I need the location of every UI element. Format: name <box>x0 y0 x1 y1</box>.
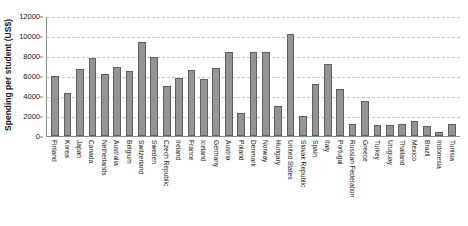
bar <box>386 125 394 136</box>
x-tick-label: Mexico <box>411 140 418 161</box>
x-tick-label: Denmark <box>250 140 257 167</box>
x-tick-label: Canada <box>88 140 95 163</box>
x-label-slot: Canada <box>85 139 97 225</box>
x-tick-label: Sweden <box>150 140 157 164</box>
x-label-slot: Poland <box>234 139 246 225</box>
bar <box>312 84 320 136</box>
bar-slot <box>136 17 148 136</box>
x-tick-label: Italy <box>324 140 331 152</box>
bar <box>336 89 344 136</box>
bar-slot <box>371 17 383 136</box>
bar-slot <box>235 17 247 136</box>
bar-slot <box>359 17 371 136</box>
bar-slot <box>272 17 284 136</box>
x-tick-label: Thailand <box>399 140 406 165</box>
bar <box>274 106 282 136</box>
x-label-slot: Sweden <box>147 139 159 225</box>
bar-slot <box>99 17 111 136</box>
bar-slot <box>433 17 445 136</box>
x-label-slot: France <box>185 139 197 225</box>
x-label-slot: Portugal <box>334 139 346 225</box>
y-tick-mark <box>40 37 43 38</box>
bar-slot <box>123 17 135 136</box>
y-tick-mark <box>40 117 43 118</box>
bar-slot <box>408 17 420 136</box>
bar <box>126 71 134 136</box>
y-tick-mark <box>40 77 43 78</box>
bar-slot <box>111 17 123 136</box>
bar <box>212 68 220 136</box>
x-tick-label: Australia <box>113 140 120 166</box>
bar-slot <box>384 17 396 136</box>
x-label-slot: Ireland <box>172 139 184 225</box>
bar <box>175 78 183 136</box>
bar-slot <box>185 17 197 136</box>
bar-slot <box>334 17 346 136</box>
bar <box>423 126 431 136</box>
x-label-slot: Mexico <box>408 139 420 225</box>
y-tick-mark <box>40 97 43 98</box>
x-label-slot: United States <box>284 139 296 225</box>
x-tick-label: Czech Republic <box>163 140 170 186</box>
bar-slot <box>247 17 259 136</box>
y-tick-mark <box>40 17 43 18</box>
x-tick-label: Turkey <box>374 140 381 160</box>
x-label-slot: Australia <box>110 139 122 225</box>
plot-area <box>46 17 460 137</box>
x-label-slot: Indonesia <box>433 139 445 225</box>
bar <box>113 67 121 136</box>
bar <box>150 57 158 136</box>
bar <box>200 79 208 136</box>
bar-slot <box>86 17 98 136</box>
bar-slot <box>49 17 61 136</box>
x-label-slot: Korea <box>60 139 72 225</box>
bar <box>89 58 97 136</box>
x-tick-label: Tunisia <box>448 140 455 161</box>
x-label-slot: Uruguay <box>383 139 395 225</box>
bar <box>324 64 332 136</box>
bar <box>262 52 270 136</box>
x-label-slot: Iceland <box>197 139 209 225</box>
bar-slot <box>260 17 272 136</box>
bar <box>51 76 59 136</box>
x-label-slot: Austria <box>222 139 234 225</box>
x-tick-label: Japan <box>76 140 83 158</box>
x-label-slot: Germany <box>209 139 221 225</box>
x-label-slot: Spain <box>309 139 321 225</box>
bar-slot <box>148 17 160 136</box>
x-label-slot: Italy <box>321 139 333 225</box>
x-label-slot: Turkey <box>371 139 383 225</box>
x-tick-label: Poland <box>237 140 244 161</box>
x-label-slot: Belgium <box>123 139 135 225</box>
x-label-slot: Norway <box>259 139 271 225</box>
bar-slot <box>446 17 458 136</box>
y-axis-tick-labels: 020004000600080001000012000 <box>16 17 43 137</box>
bar-slot <box>309 17 321 136</box>
x-tick-label: Hungary <box>275 140 282 165</box>
bar-slot <box>61 17 73 136</box>
bar <box>361 101 369 136</box>
y-tick-label: 6000 <box>23 73 40 81</box>
y-tick-label: 12000 <box>19 13 40 21</box>
x-tick-label: France <box>188 140 195 161</box>
bar-chart: Spending per student (US$) 0200040006000… <box>0 0 468 226</box>
bar-slot <box>421 17 433 136</box>
bar <box>64 93 72 136</box>
bar <box>299 116 307 136</box>
x-label-slot: Switzerland <box>135 139 147 225</box>
bar-slot <box>346 17 358 136</box>
x-tick-label: United States <box>287 140 294 180</box>
bar-slot <box>284 17 296 136</box>
y-axis-title: Spending per student (US$) <box>0 0 16 150</box>
x-tick-label: Russian Federation <box>349 140 356 197</box>
x-tick-label: Portugal <box>337 140 344 165</box>
x-tick-label: Uruguay <box>386 140 393 165</box>
x-label-slot: Russian Federation <box>346 139 358 225</box>
x-tick-label: Belgium <box>125 140 132 164</box>
x-tick-label: Korea <box>63 140 70 158</box>
x-tick-label: Norway <box>262 140 269 162</box>
bar-slot <box>396 17 408 136</box>
bar-slot <box>161 17 173 136</box>
x-tick-label: Switzerland <box>138 140 145 174</box>
x-axis-tick-labels: FinlandKoreaJapanCanadaNetherlandsAustra… <box>46 139 460 225</box>
